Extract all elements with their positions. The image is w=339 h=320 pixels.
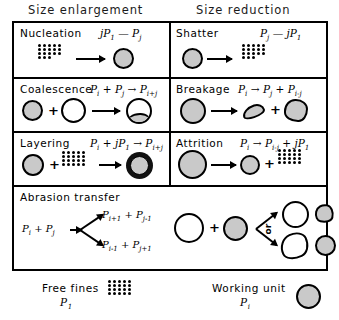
dot-cluster-icon bbox=[278, 149, 302, 164]
eq-plus: + bbox=[34, 223, 42, 234]
column-heading-enlargement: Size enlargement bbox=[28, 3, 143, 17]
panel-breakage: Breakage Pi → Pj + Pi-j + bbox=[170, 79, 326, 133]
dot-cluster-icon bbox=[242, 44, 266, 59]
panel-abrasion-transfer: Abrasion transfer Pi + Pj Pi+1 + Pj-1 bbox=[14, 187, 326, 269]
ringed-circle-icon bbox=[126, 152, 153, 179]
panel-title-nucleation: Nucleation bbox=[20, 27, 82, 39]
fragment-icon bbox=[284, 99, 308, 122]
merged-circle-icon bbox=[126, 98, 152, 124]
eq-sub-a: i+1 bbox=[109, 215, 122, 223]
eq-arrow: → bbox=[133, 137, 142, 149]
eq-operator: — bbox=[273, 27, 284, 39]
artwork-shatter bbox=[170, 43, 326, 79]
legend-symbol-text: P bbox=[240, 296, 248, 308]
plus-symbol: + bbox=[49, 158, 60, 171]
gray-circle-icon bbox=[223, 216, 248, 241]
row-coalescence-breakage: Coalescence Pi + Pj → Pi+j + Breakage bbox=[14, 79, 326, 133]
eq-sub-a: i-1 bbox=[109, 245, 118, 253]
panel-title-shatter: Shatter bbox=[176, 27, 219, 39]
plus-symbol: + bbox=[270, 103, 281, 116]
eq-term-c: P bbox=[140, 83, 147, 95]
or-label: or bbox=[263, 223, 273, 234]
branch-arrow-down bbox=[79, 229, 103, 246]
eq-term-c: jP bbox=[294, 137, 304, 149]
eq-sub-b: j-1 bbox=[143, 215, 152, 223]
white-circle-icon bbox=[174, 213, 204, 243]
abrasion-product-bottom: Pi-1 + Pj+1 bbox=[102, 239, 152, 253]
eq-plus: + bbox=[282, 137, 291, 149]
eq-sub-lhs: j bbox=[267, 33, 269, 42]
row-abrasion-transfer: Abrasion transfer Pi + Pj Pi+1 + Pj-1 bbox=[14, 187, 326, 269]
panel-title-abrasion: Abrasion transfer bbox=[20, 191, 120, 203]
outcome-white-circle-top bbox=[282, 201, 309, 228]
artwork-nucleation bbox=[14, 43, 170, 79]
diagram-root: Size enlargement Size reduction Nucleati… bbox=[0, 0, 339, 320]
gray-circle-icon bbox=[113, 48, 134, 69]
panel-layering: Layering Pi + jP1 → Pi+j + bbox=[14, 133, 170, 187]
gray-circle-icon bbox=[22, 154, 44, 176]
branch-arrow-up bbox=[79, 214, 103, 231]
legend-symbol-sub: i bbox=[248, 303, 251, 311]
panel-title-breakage: Breakage bbox=[176, 83, 230, 95]
panel-coalescence: Coalescence Pi + Pj → Pi+j + bbox=[14, 79, 170, 133]
eq-term-b: P bbox=[115, 83, 122, 95]
artwork-attrition: + bbox=[170, 149, 326, 185]
gray-circle-icon bbox=[180, 98, 206, 124]
outcome-white-blob-bottom bbox=[276, 228, 313, 264]
outcome-gray-circle-bottom bbox=[315, 235, 336, 256]
eq-arrow: → bbox=[253, 137, 262, 149]
artwork-layering: + bbox=[14, 150, 170, 186]
abrasion-product-top: Pi+1 + Pj-1 bbox=[102, 209, 152, 223]
dot-cluster-icon bbox=[62, 151, 86, 166]
eq-plus: + bbox=[103, 137, 112, 149]
eq-term-rhs: jP bbox=[287, 27, 297, 39]
artwork-breakage: + bbox=[170, 96, 326, 132]
eq-term-b: jP bbox=[115, 137, 125, 149]
legend-symbol-sub: 1 bbox=[68, 303, 73, 311]
equation-nucleation: jP1 — Pj bbox=[100, 27, 141, 42]
gray-circle-icon bbox=[296, 284, 321, 309]
eq-sub-rhs: j bbox=[139, 33, 141, 42]
eq-sub-b: j+1 bbox=[139, 245, 152, 253]
white-circle-icon bbox=[61, 98, 86, 123]
eq-plus: + bbox=[121, 239, 129, 250]
large-gray-circle-icon bbox=[178, 150, 207, 179]
row-nucleation-shatter: Nucleation jP1 — Pj bbox=[14, 23, 326, 79]
eq-sub-a: i bbox=[29, 229, 31, 237]
equation-shatter: Pj — jP1 bbox=[260, 27, 301, 42]
panel-shatter: Shatter Pj — jP1 bbox=[170, 23, 326, 79]
dot-cluster-icon bbox=[38, 44, 62, 59]
eq-sub-b: j bbox=[52, 229, 54, 237]
eq-term-c: P bbox=[288, 83, 295, 95]
plus-symbol: + bbox=[209, 221, 220, 234]
eq-arrow: → bbox=[251, 83, 260, 95]
gray-circle-icon bbox=[182, 48, 203, 69]
legend-symbol-free-fines: P1 bbox=[60, 296, 73, 311]
arrow-icon bbox=[207, 58, 232, 60]
mechanism-grid: Nucleation jP1 — Pj bbox=[12, 21, 328, 271]
small-gray-circle-icon bbox=[240, 155, 260, 175]
artwork-coalescence: + bbox=[14, 96, 170, 132]
eq-sub-rhs: 1 bbox=[297, 33, 302, 42]
eq-term-b: P bbox=[263, 83, 270, 95]
panel-attrition: Attrition Pi → Pi-j + jP1 + bbox=[170, 133, 326, 187]
eq-arrow: → bbox=[128, 83, 137, 95]
eq-term-a: P bbox=[102, 239, 109, 250]
arrow-icon bbox=[211, 164, 236, 166]
eq-plus: + bbox=[103, 83, 112, 95]
eq-term-b: P bbox=[265, 137, 272, 149]
plus-symbol: + bbox=[264, 157, 275, 170]
eq-term-a: P bbox=[22, 223, 29, 234]
eq-term-a: P bbox=[102, 209, 109, 220]
abrasion-reactant: Pi + Pj bbox=[22, 223, 55, 237]
arrow-icon bbox=[76, 58, 105, 60]
dot-cluster-icon bbox=[108, 280, 132, 295]
eq-plus: + bbox=[276, 83, 285, 95]
legend: Free fines P1 Working unit Pi bbox=[0, 274, 339, 320]
legend-label-working-unit: Working unit bbox=[212, 282, 286, 294]
panel-nucleation: Nucleation jP1 — Pj bbox=[14, 23, 170, 79]
eq-plus: + bbox=[124, 209, 132, 220]
legend-label-free-fines: Free fines bbox=[42, 282, 99, 294]
legend-symbol-text: P bbox=[60, 296, 68, 308]
arrow-icon bbox=[211, 110, 237, 112]
